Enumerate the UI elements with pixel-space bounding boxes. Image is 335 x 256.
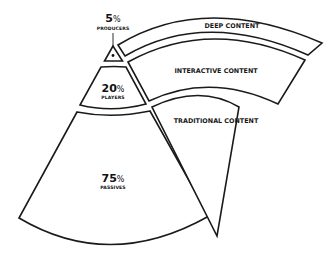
players-label: PLAYERS xyxy=(101,95,124,100)
producers-dot-icon xyxy=(112,54,115,57)
passives-label: PASSIVES xyxy=(100,185,125,190)
interactive-content-label: INTERACTIVE CONTENT xyxy=(174,67,258,75)
traditional-content-label: TRADITIONAL CONTENT xyxy=(174,117,259,125)
deep-content-label: DEEP CONTENT xyxy=(205,22,260,30)
producers-percent: 5% xyxy=(105,12,121,25)
audience-content-diagram: 5% PRODUCERS 20% PLAYERS 75% PASSIVES DE… xyxy=(0,0,335,256)
producers-label: PRODUCERS xyxy=(97,26,130,31)
